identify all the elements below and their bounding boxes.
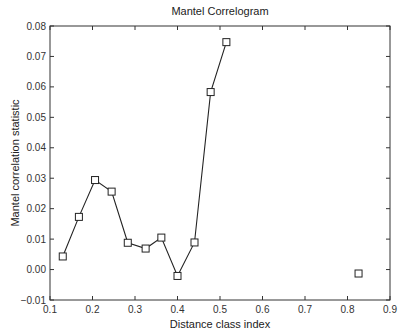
series-line: [63, 42, 227, 276]
x-tick-label: 0.6: [256, 304, 270, 315]
y-tick-label: 0.07: [27, 51, 47, 62]
y-tick-label: −0.01: [21, 295, 47, 306]
x-axis: 0.10.20.30.40.50.60.70.80.9: [43, 26, 397, 315]
x-tick-label: 0.4: [171, 304, 185, 315]
y-tick-label: 0.06: [27, 81, 47, 92]
y-tick-label: 0.04: [27, 142, 47, 153]
square-marker: [108, 188, 115, 195]
y-axis-label: Mantel correlation statistic: [9, 99, 21, 227]
square-marker: [59, 253, 66, 260]
square-marker: [174, 272, 181, 279]
y-tick-label: 0.05: [27, 112, 47, 123]
x-tick-label: 0.3: [128, 304, 142, 315]
square-marker: [191, 239, 198, 246]
x-tick-label: 0.1: [43, 304, 57, 315]
square-marker: [75, 213, 82, 220]
mantel-correlogram-chart: Mantel Correlogram 0.10.20.30.40.50.60.7…: [0, 0, 406, 333]
y-axis: −0.010.000.010.020.030.040.050.060.070.0…: [21, 21, 390, 306]
chart-title: Mantel Correlogram: [171, 5, 268, 17]
square-marker: [142, 245, 149, 252]
square-marker: [124, 239, 131, 246]
plot-frame: [50, 26, 390, 300]
x-tick-label: 0.7: [298, 304, 312, 315]
data-series: [59, 39, 362, 280]
y-tick-label: 0.00: [27, 264, 47, 275]
square-marker: [355, 270, 362, 277]
square-marker: [207, 89, 214, 96]
y-tick-label: 0.02: [27, 203, 47, 214]
square-marker: [92, 177, 99, 184]
x-axis-label: Distance class index: [170, 318, 271, 330]
x-tick-label: 0.2: [86, 304, 100, 315]
x-tick-label: 0.9: [383, 304, 397, 315]
x-tick-label: 0.8: [341, 304, 355, 315]
y-tick-label: 0.01: [27, 234, 47, 245]
square-marker: [158, 234, 165, 241]
square-marker: [223, 39, 230, 46]
x-tick-label: 0.5: [213, 304, 227, 315]
y-tick-label: 0.08: [27, 21, 47, 32]
y-tick-label: 0.03: [27, 173, 47, 184]
